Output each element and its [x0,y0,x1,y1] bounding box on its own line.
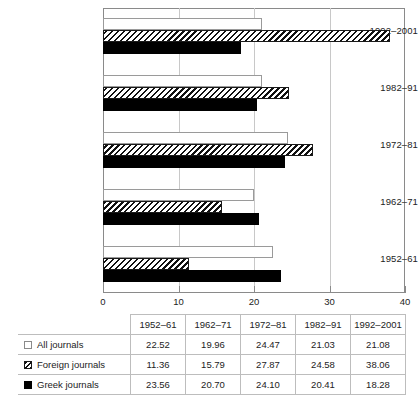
table-cell-r0-c1: 19.96 [186,335,241,355]
x-tick-label-40: 40 [400,296,411,307]
table-cell-r2-c3: 20.41 [296,375,351,395]
table-cell-r0-c4: 21.08 [351,335,406,355]
y-axis-label-1962–71: 1962–71 [326,196,418,207]
x-tick-mark-20 [254,286,255,293]
table-header-0: 1952–61 [131,315,186,335]
data-table: 1952–61 1962–71 1972–81 1982–91 1992–200… [18,314,406,395]
x-tick-mark-40 [405,286,406,293]
x-tick-label-20: 20 [249,296,260,307]
table-cell-r2-c2: 24.10 [241,375,296,395]
bar-all-journals-1992–2001 [103,18,262,30]
table-cell-r1-c3: 24.58 [296,355,351,375]
bar-foreign-journals-1972–81 [103,144,313,156]
table-row: Foreign journals11.3615.7927.8724.5838.0… [18,355,406,375]
y-axis-label-1972–81: 1972–81 [326,139,418,150]
y-axis-label-1952–61: 1952–61 [326,253,418,264]
table-cell-r1-c0: 11.36 [131,355,186,375]
bar-greek-journals-1952–61 [103,270,281,282]
table-cell-r0-c2: 24.47 [241,335,296,355]
table-corner-cell [18,315,131,335]
table-cell-r1-c4: 38.06 [351,355,406,375]
table-row: Greek journals23.5620.7024.1020.4118.28 [18,375,406,395]
table-cell-r1-c2: 27.87 [241,355,296,375]
bar-all-journals-1952–61 [103,246,273,258]
black-square-icon [24,381,32,389]
table-header-1: 1962–71 [186,315,241,335]
bar-foreign-journals-1982–91 [103,87,289,99]
bar-chart: 010203040 1992–20011982–911972–811962–71… [0,0,418,310]
bar-greek-journals-1982–91 [103,99,257,111]
table-cell-r0-c0: 22.52 [131,335,186,355]
bar-foreign-journals-1992–2001 [103,30,390,42]
table-header-2: 1972–81 [241,315,296,335]
x-tick-mark-0 [103,286,104,293]
bar-all-journals-1982–91 [103,75,262,87]
table-header-4: 1992–2001 [351,315,406,335]
table-cell-r2-c4: 18.28 [351,375,406,395]
table-cell-r1-c1: 15.79 [186,355,241,375]
bar-greek-journals-1972–81 [103,156,285,168]
legend-label: All journals [37,339,83,350]
x-tick-label-0: 0 [100,296,105,307]
x-tick-label-30: 30 [324,296,335,307]
table-row: All journals22.5219.9624.4721.0321.08 [18,335,406,355]
bar-foreign-journals-1962–71 [103,201,222,213]
white-square-outline-icon [24,341,32,349]
table-cell-r0-c3: 21.03 [296,335,351,355]
data-table-wrapper: 1952–61 1962–71 1972–81 1982–91 1992–200… [18,314,406,395]
table-header-3: 1982–91 [296,315,351,335]
legend-label: Greek journals [37,379,99,390]
table-cell-r2-c0: 23.56 [131,375,186,395]
bar-all-journals-1962–71 [103,189,254,201]
bar-greek-journals-1992–2001 [103,42,241,54]
y-axis-label-1982–91: 1982–91 [326,82,418,93]
table-header-row: 1952–61 1962–71 1972–81 1982–91 1992–200… [18,315,406,335]
x-tick-label-10: 10 [173,296,184,307]
chart-page: 010203040 1992–20011982–911972–811962–71… [0,0,418,401]
bar-foreign-journals-1952–61 [103,258,189,270]
x-tick-mark-10 [179,286,180,293]
hatched-square-icon [24,361,32,369]
legend-cell-foreign-journals: Foreign journals [18,355,131,375]
legend-label: Foreign journals [37,359,105,370]
bar-greek-journals-1962–71 [103,213,259,225]
table-cell-r2-c1: 20.70 [186,375,241,395]
bar-all-journals-1972–81 [103,132,288,144]
table-body: All journals22.5219.9624.4721.0321.08For… [18,335,406,395]
legend-cell-greek-journals: Greek journals [18,375,131,395]
gridline-30 [330,8,331,292]
legend-cell-all-journals: All journals [18,335,131,355]
x-tick-mark-30 [330,286,331,293]
